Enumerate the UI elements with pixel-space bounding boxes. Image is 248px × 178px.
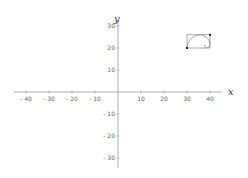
plotted-shapes	[186, 34, 211, 49]
data-point	[209, 34, 211, 36]
x-tick-label: 20	[160, 95, 168, 102]
x-tick-label: 10	[137, 95, 145, 102]
y-axis-label: y	[113, 13, 120, 24]
x-tick-label: 40	[206, 95, 214, 102]
ticks: - 40- 30- 20- 1010203040302010- 10- 20- …	[20, 22, 214, 161]
y-tick-label: 20	[107, 44, 115, 51]
golden-spiral	[187, 35, 210, 48]
axes	[14, 20, 222, 168]
coordinate-plane: - 40- 30- 20- 1010203040302010- 10- 20- …	[0, 0, 248, 178]
x-axis-label: x	[228, 86, 234, 97]
y-tick-label: - 20	[103, 132, 115, 139]
x-tick-label: - 30	[43, 95, 55, 102]
y-tick-label: - 10	[103, 110, 115, 117]
x-tick-label: 30	[183, 95, 191, 102]
x-tick-label: - 40	[20, 95, 32, 102]
x-tick-label: - 20	[66, 95, 78, 102]
y-tick-label: - 30	[103, 154, 115, 161]
data-point	[186, 47, 188, 49]
x-tick-label: - 10	[89, 95, 101, 102]
y-tick-label: 10	[107, 66, 115, 73]
